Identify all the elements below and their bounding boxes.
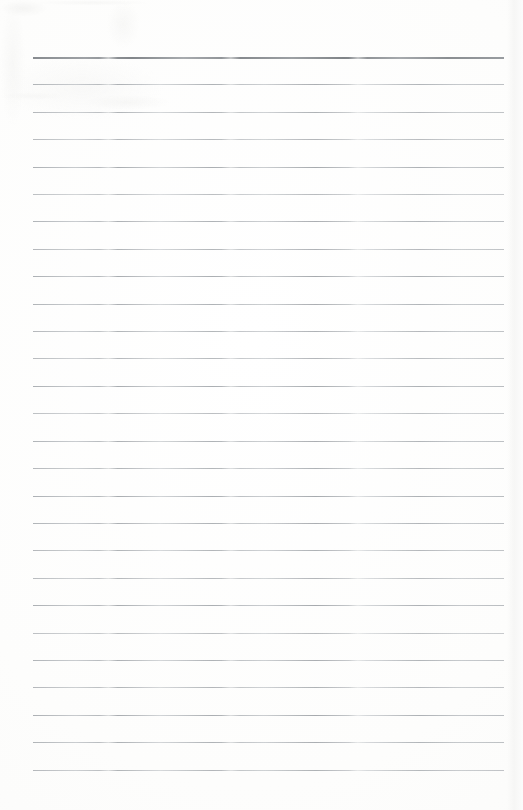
writing-line-slot <box>33 305 504 331</box>
writing-line-slot <box>33 195 504 221</box>
writing-line-slot <box>33 58 504 84</box>
writing-line-slot <box>33 688 504 715</box>
writing-line-slot <box>33 332 504 358</box>
writing-line-slot <box>33 359 504 386</box>
writing-line-slot <box>33 551 504 578</box>
scanned-page <box>0 0 523 810</box>
writing-line-slot <box>33 277 504 304</box>
writing-line-slot <box>33 743 504 770</box>
writing-line-slot <box>33 113 504 139</box>
writing-line-slot <box>33 414 504 441</box>
writing-line-slot <box>33 387 504 413</box>
writing-line-slot <box>33 250 504 276</box>
writing-line-slot <box>33 222 504 249</box>
writing-line-slot <box>33 634 504 660</box>
writing-line-slot <box>33 661 504 687</box>
writing-line-slot <box>33 497 504 523</box>
writing-line-slot <box>33 579 504 605</box>
writing-line-slot <box>33 606 504 633</box>
writing-line-slot <box>33 716 504 742</box>
writing-line-slot <box>33 85 504 112</box>
ruled-line <box>33 770 504 771</box>
writing-line-slot <box>33 469 504 496</box>
writing-line-slot <box>33 168 504 194</box>
writing-line-slot <box>33 140 504 167</box>
writing-line-slot <box>33 442 504 468</box>
ruled-lines-group <box>0 0 523 810</box>
writing-line-slot <box>33 524 504 550</box>
